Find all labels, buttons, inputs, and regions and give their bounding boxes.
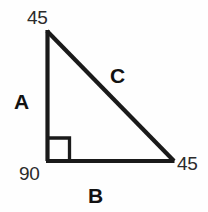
hypotenuse-segment bbox=[47, 31, 174, 161]
angle-label-bottom-right: 45 bbox=[177, 154, 198, 173]
side-label-c: C bbox=[110, 65, 125, 86]
side-label-b: B bbox=[88, 185, 103, 206]
right-angle-marker bbox=[48, 138, 70, 160]
diagram-canvas: 45 45 90 A B C bbox=[0, 0, 208, 212]
side-label-a: A bbox=[14, 91, 29, 112]
angle-label-bottom-left: 90 bbox=[19, 164, 40, 183]
angle-label-top: 45 bbox=[27, 8, 48, 27]
